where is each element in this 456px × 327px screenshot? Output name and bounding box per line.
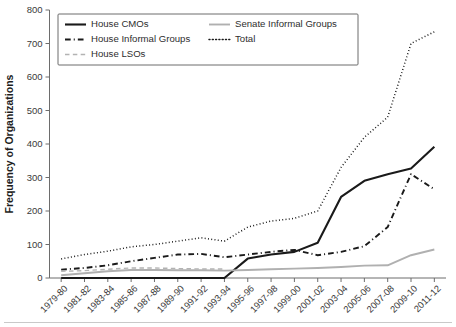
series-line-house-cmos	[61, 147, 434, 278]
legend-label: Senate Informal Groups	[235, 18, 337, 29]
y-tick-label: 600	[27, 71, 43, 82]
y-tick-label: 100	[27, 239, 43, 250]
legend-label: House LSOs	[91, 48, 146, 59]
chart-legend: House CMOsHouse Informal GroupsHouse LSO…	[58, 14, 358, 65]
series-line-senate-informal-groups	[61, 250, 434, 276]
y-tick-label: 200	[27, 205, 43, 216]
legend-label: Total	[235, 33, 255, 44]
y-axis-ticks: 0100200300400500600700800	[27, 4, 50, 283]
y-tick-label: 800	[27, 4, 43, 15]
y-axis-title: Frequency of Organizations	[3, 74, 15, 213]
series-lines	[61, 32, 434, 278]
series-line-house-informal-groups	[61, 174, 434, 269]
y-tick-label: 500	[27, 105, 43, 116]
x-axis-ticks: 1979-801981-821983-841985-861987-881989-…	[38, 278, 442, 315]
legend-label: House CMOs	[91, 18, 149, 29]
y-tick-label: 300	[27, 172, 43, 183]
y-tick-label: 400	[27, 138, 43, 149]
series-line-total	[61, 32, 434, 259]
legend-label: House Informal Groups	[91, 33, 190, 44]
line-chart: 0100200300400500600700800 1979-801981-82…	[0, 0, 456, 327]
y-tick-label: 700	[27, 38, 43, 49]
chart-figure: 0100200300400500600700800 1979-801981-82…	[0, 0, 456, 327]
y-tick-label: 0	[37, 272, 42, 283]
